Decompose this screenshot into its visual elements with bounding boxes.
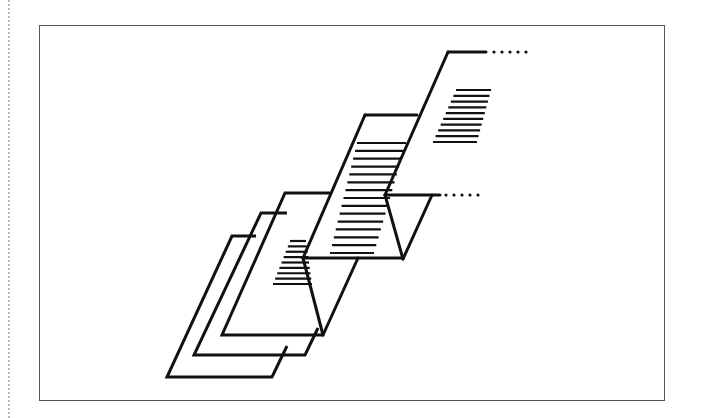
fanfold-paper-diagram [0, 0, 703, 418]
continuation-dot-upper-fold [468, 193, 471, 196]
continuation-dot-upper-fold [444, 193, 447, 196]
continuation-dot-upper-fold [452, 193, 455, 196]
continuation-dot-top-sheet [492, 50, 495, 53]
continuation-dot-upper-fold [476, 193, 479, 196]
continuation-dot-top-sheet [500, 50, 503, 53]
lower-fold-right-arm [323, 258, 358, 335]
continuation-dots [444, 50, 527, 196]
upper-fold-left-arm [385, 195, 403, 259]
upper-fold-right-arm [403, 195, 432, 259]
lower-fold-left-arm [303, 258, 323, 335]
continuation-dot-top-sheet [524, 50, 527, 53]
paper-folds [303, 52, 486, 335]
continuation-dot-top-sheet [516, 50, 519, 53]
continuation-dot-top-sheet [508, 50, 511, 53]
continuation-dot-upper-fold [460, 193, 463, 196]
